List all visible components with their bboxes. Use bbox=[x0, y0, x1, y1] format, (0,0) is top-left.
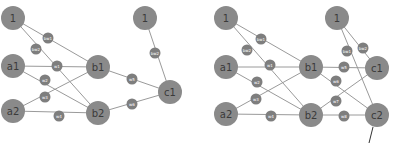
node-label: b1 bbox=[92, 62, 105, 73]
weight-label: bw2 bbox=[151, 51, 160, 56]
weight-w1: w1 bbox=[265, 60, 276, 71]
weight-label: w5 bbox=[341, 65, 347, 70]
weight-w5: w5 bbox=[127, 74, 138, 85]
node-bias1: 1 bbox=[214, 6, 238, 30]
weight-label: w4 bbox=[268, 114, 274, 119]
weight-label: w7 bbox=[333, 99, 339, 104]
weight-w1: w1 bbox=[52, 61, 63, 72]
edge-bias1-b1 bbox=[226, 18, 311, 67]
node-a1: a1 bbox=[214, 55, 238, 79]
weight-label: w2 bbox=[254, 80, 260, 85]
node-label: 1 bbox=[142, 13, 148, 24]
weight-label: bw2 bbox=[32, 47, 41, 52]
weight-w8: w8 bbox=[339, 111, 350, 122]
node-label: c1 bbox=[371, 63, 383, 74]
weight-w6: w6 bbox=[127, 99, 138, 110]
weight-label: bw1 bbox=[257, 37, 266, 42]
node-bias1: 1 bbox=[1, 6, 25, 30]
weight-label: bw1 bbox=[44, 36, 53, 41]
weight-w2: w2 bbox=[40, 75, 51, 86]
node-b1: b1 bbox=[86, 55, 110, 79]
weight-w4: w4 bbox=[266, 111, 277, 122]
weight-label: w6 bbox=[129, 102, 135, 107]
node-label: b1 bbox=[305, 62, 318, 73]
node-b1: b1 bbox=[299, 55, 323, 79]
weight-w7: w7 bbox=[331, 96, 342, 107]
node-b2: b2 bbox=[299, 103, 323, 127]
node-c1: c1 bbox=[158, 80, 182, 104]
weight-label: w1 bbox=[54, 64, 60, 69]
weight-label: w5 bbox=[129, 77, 135, 82]
weight-w3: w3 bbox=[40, 92, 51, 103]
weight-bw2: bw2 bbox=[150, 48, 161, 59]
weight-w3: w3 bbox=[251, 94, 262, 105]
weight-label: bw2 bbox=[243, 48, 252, 53]
node-label: 1 bbox=[223, 13, 229, 24]
neural-network-diagrams: 1a1a2b1b21c11a1a2b1b21c1c2 bw1bw2w1w2w3w… bbox=[0, 0, 395, 146]
weight-w4: w4 bbox=[54, 111, 65, 122]
node-label: 1 bbox=[334, 13, 340, 24]
node-label: b2 bbox=[92, 108, 105, 119]
node-label: a1 bbox=[220, 62, 233, 73]
node-label: c1 bbox=[164, 87, 176, 98]
weight-label: bw1 bbox=[343, 49, 352, 54]
node-label: a2 bbox=[7, 106, 20, 117]
node-label: c2 bbox=[371, 110, 383, 121]
weight-bw1: bw1 bbox=[256, 34, 267, 45]
node-a2: a2 bbox=[214, 102, 238, 126]
weight-label: w3 bbox=[42, 95, 48, 100]
node-c2: c2 bbox=[365, 103, 389, 127]
weight-label: w3 bbox=[253, 97, 259, 102]
weight-bw2: bw2 bbox=[358, 43, 369, 54]
weight-bw1: bw1 bbox=[342, 46, 353, 57]
weight-label: w8 bbox=[341, 114, 347, 119]
node-label: b2 bbox=[305, 110, 318, 121]
node-label: a1 bbox=[7, 61, 20, 72]
weight-bw2: bw2 bbox=[242, 45, 253, 56]
node-bias2: 1 bbox=[325, 6, 349, 30]
weight-bw2: bw2 bbox=[31, 44, 42, 55]
pointer-line bbox=[369, 127, 373, 143]
weight-label: w2 bbox=[42, 78, 48, 83]
node-label: a2 bbox=[220, 109, 233, 120]
node-c1: c1 bbox=[365, 56, 389, 80]
weight-label: w6 bbox=[333, 79, 339, 84]
node-bias2: 1 bbox=[133, 6, 157, 30]
weight-w6: w6 bbox=[331, 76, 342, 87]
weight-w5: w5 bbox=[339, 62, 350, 73]
weight-bw1: bw1 bbox=[43, 33, 54, 44]
weight-w2: w2 bbox=[252, 77, 263, 88]
weight-label: bw2 bbox=[359, 46, 368, 51]
node-b2: b2 bbox=[86, 101, 110, 125]
node-a2: a2 bbox=[1, 99, 25, 123]
pointer-layer bbox=[369, 127, 373, 143]
node-label: 1 bbox=[10, 13, 16, 24]
node-a1: a1 bbox=[1, 54, 25, 78]
edge-bias1-b1 bbox=[13, 18, 98, 67]
weight-label: w1 bbox=[267, 63, 273, 68]
weight-label: w4 bbox=[56, 114, 62, 119]
